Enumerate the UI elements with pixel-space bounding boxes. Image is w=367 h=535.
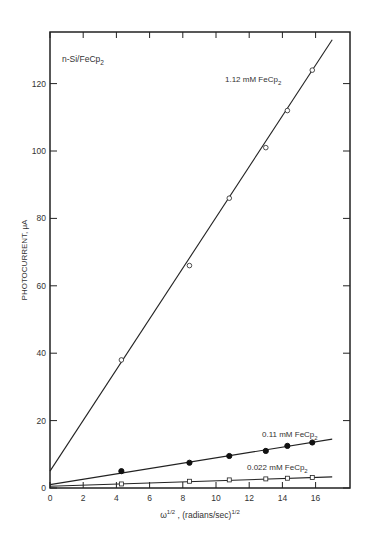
plot-frame bbox=[50, 32, 350, 488]
x-tick-label: 10 bbox=[211, 493, 221, 503]
data-point-filled bbox=[310, 440, 315, 445]
axis-ticks bbox=[50, 32, 350, 488]
y-tick-label: 20 bbox=[37, 416, 47, 426]
x-tick-label: 12 bbox=[244, 493, 254, 503]
data-point-open bbox=[119, 358, 124, 363]
y-tick-label: 100 bbox=[32, 146, 46, 156]
y-tick-label: 60 bbox=[37, 281, 47, 291]
series-label-1-12mM: 1.12 mM FeCp2 bbox=[225, 75, 282, 86]
x-tick-label: 0 bbox=[48, 493, 53, 503]
data-point-filled bbox=[119, 469, 124, 474]
series-label-0-11mM: 0.11 mM FeCp2 bbox=[262, 430, 318, 441]
x-tick-label: 8 bbox=[180, 493, 185, 503]
data-point-open bbox=[227, 196, 232, 201]
series-2 bbox=[50, 476, 332, 487]
data-series bbox=[50, 40, 332, 487]
y-tick-label: 0 bbox=[41, 483, 46, 493]
y-tick-label: 120 bbox=[32, 79, 46, 89]
data-point-open bbox=[310, 68, 315, 73]
data-point-square bbox=[227, 478, 231, 482]
data-point-square bbox=[187, 479, 191, 483]
x-tick-label: 14 bbox=[278, 493, 288, 503]
data-point-open bbox=[264, 145, 269, 150]
data-point-square bbox=[285, 476, 289, 480]
y-axis-label: PHOTOCURRENT, μA bbox=[20, 219, 29, 301]
data-point-filled bbox=[285, 443, 290, 448]
chart-annotation: n-Si/FeCp2 bbox=[62, 54, 104, 66]
data-point-open bbox=[285, 108, 290, 113]
axis-tick-labels: 0246810121416020406080100120 bbox=[32, 79, 321, 503]
x-tick-label: 2 bbox=[81, 493, 86, 503]
series-0 bbox=[50, 40, 332, 471]
fit-line bbox=[50, 40, 332, 471]
data-point-open bbox=[187, 263, 192, 268]
x-tick-label: 16 bbox=[311, 493, 321, 503]
photocurrent-chart: 0246810121416020406080100120 n-Si/FeCp2 … bbox=[0, 0, 367, 535]
data-point-square bbox=[310, 476, 314, 480]
data-point-filled bbox=[187, 460, 192, 465]
y-tick-label: 80 bbox=[37, 213, 47, 223]
x-tick-label: 6 bbox=[147, 493, 152, 503]
data-point-filled bbox=[263, 448, 268, 453]
data-point-square bbox=[264, 477, 268, 481]
data-point-square bbox=[119, 482, 123, 486]
data-point-filled bbox=[227, 453, 232, 458]
x-tick-label: 4 bbox=[114, 493, 119, 503]
series-label-0-022mM: 0.022 mM FeCp2 bbox=[247, 463, 308, 474]
x-axis-label: ω1/2 , (radians/sec)1/2 bbox=[160, 509, 240, 520]
y-tick-label: 40 bbox=[37, 348, 47, 358]
